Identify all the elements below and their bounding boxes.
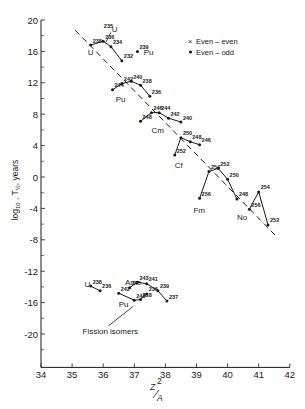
mass-number-label: 239 <box>160 283 169 289</box>
x-tick-label: 36 <box>98 369 109 380</box>
mass-number-label: 232 <box>124 53 133 59</box>
y-tick-label: -16 <box>24 297 38 308</box>
data-point <box>120 82 123 85</box>
data-point <box>139 84 142 87</box>
y-tick-label: 4 <box>33 140 38 151</box>
y-axis-title: log10 , T½, years <box>10 160 21 221</box>
series-u-fission-isomers-: 238236U <box>85 279 112 293</box>
data-point <box>139 298 142 301</box>
data-point <box>99 289 102 292</box>
mass-number-label: 252 <box>177 148 186 154</box>
y-tick-label: 16 <box>27 46 38 57</box>
element-label: Pu <box>144 48 154 57</box>
element-label: No <box>237 213 248 222</box>
xlabel-sup: 2 <box>157 376 162 386</box>
y-tick-label: -20 <box>24 329 38 340</box>
data-point <box>145 282 148 285</box>
mass-number-label: 256 <box>202 191 211 197</box>
element-label: U <box>112 25 118 34</box>
x-tick-label: 35 <box>67 369 78 380</box>
data-point <box>248 208 251 211</box>
mass-number-label: 238 <box>93 38 102 44</box>
x-tick-label: 40 <box>222 369 233 380</box>
legend-marker-even-odd <box>189 50 192 53</box>
element-label: U <box>88 48 94 57</box>
mass-number-label: 254 <box>261 184 271 190</box>
mass-number-label: 248 <box>143 114 152 120</box>
x-tick-label: 34 <box>36 369 47 380</box>
mass-number-label: 256 <box>251 202 260 208</box>
data-point <box>226 178 229 181</box>
mass-number-label: 240 <box>183 115 192 121</box>
element-label: Cf <box>175 161 184 170</box>
data-point <box>158 111 161 114</box>
xlabel-z: Z <box>149 382 156 392</box>
mass-number-label: 238 <box>93 279 102 285</box>
x-tick-label: 37 <box>129 369 140 380</box>
legend: × Even – even Even – odd <box>188 37 238 57</box>
data-point <box>179 136 182 139</box>
series-fm: 256254252250248Fm <box>193 161 248 215</box>
y-tick-label: 20 <box>27 15 38 26</box>
mass-number-label: 238 <box>143 78 152 84</box>
trend-line <box>75 30 277 237</box>
ylabel-log: log <box>10 209 20 221</box>
mass-number-label: 236 <box>152 89 161 95</box>
data-point <box>167 117 170 120</box>
data-point <box>156 289 159 292</box>
series-curve <box>91 286 100 291</box>
data-point <box>102 40 105 43</box>
data-point <box>120 59 123 62</box>
data-point <box>207 170 210 173</box>
mass-number-label: 250 <box>230 172 239 178</box>
legend-marker-even-even: × <box>188 37 192 46</box>
y-tick-label: 0 <box>33 172 38 183</box>
y-tick-label: -12 <box>24 266 38 277</box>
series-pu: 244242240238236Pu <box>111 74 161 104</box>
data-point <box>267 223 270 226</box>
data-point <box>150 111 153 114</box>
mass-number-label: 237 <box>169 294 178 300</box>
data-point <box>257 190 260 193</box>
data-point <box>217 167 220 170</box>
x-tick-label: 42 <box>285 369 296 380</box>
x-tick-label: 39 <box>191 369 202 380</box>
mass-number-label: 234 <box>113 39 123 45</box>
series-cf: 252250248246Cf <box>173 130 211 169</box>
data-point <box>133 299 136 302</box>
y-tick-label: 12 <box>27 77 38 88</box>
data-point <box>145 292 148 295</box>
series-pu-fission-isomers-: 242240238236Pu <box>117 286 158 310</box>
series-pu: 239Pu <box>136 44 154 57</box>
data-point <box>198 197 201 200</box>
mass-number-label: 236 <box>102 283 111 289</box>
data-point <box>111 88 114 91</box>
legend-label-even-odd: Even – odd <box>196 48 234 57</box>
mass-number-label: 242 <box>171 111 180 117</box>
mass-number-label: 252 <box>220 161 229 167</box>
mass-number-label: 252 <box>270 217 279 223</box>
data-point <box>198 143 201 146</box>
series-u: 238236234232235UU <box>88 23 133 62</box>
mass-number-label: 248 <box>192 134 201 140</box>
mass-number-label: 250 <box>183 130 192 136</box>
data-point <box>189 140 192 143</box>
data-point <box>89 44 92 47</box>
data-point <box>109 45 112 48</box>
data-point <box>173 154 176 157</box>
mass-number-label: 248 <box>239 191 248 197</box>
data-point <box>235 197 238 200</box>
series-group: 238236234232235UU239Pu244242240238236Pu2… <box>83 23 280 335</box>
x-axis-title: Z 2 A <box>149 376 163 403</box>
data-point <box>117 292 120 295</box>
mass-number-label: 243 <box>139 275 148 281</box>
legend-label-even-even: Even – even <box>196 37 238 46</box>
y-tick-label: -8 <box>30 234 38 245</box>
data-point <box>165 300 168 303</box>
y-tick-label: 8 <box>33 109 38 120</box>
axes: 201612840-4-8-12-16-20343536373839404142 <box>24 15 295 381</box>
mass-number-label: 241 <box>149 276 158 282</box>
x-tick-label: 41 <box>253 369 264 380</box>
svg-text:log10 , T½, years: log10 , T½, years <box>10 160 21 221</box>
y-tick-label: -4 <box>30 203 38 214</box>
